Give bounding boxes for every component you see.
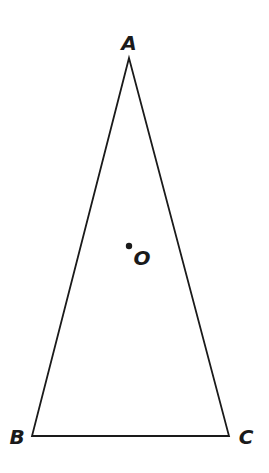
triangle-diagram: A B C O — [0, 0, 269, 473]
vertex-label-b: B — [9, 425, 24, 449]
vertex-label-a: A — [119, 31, 136, 55]
point-label-o: O — [133, 246, 150, 270]
vertex-label-c: C — [239, 425, 254, 449]
point-o-dot — [126, 243, 132, 249]
